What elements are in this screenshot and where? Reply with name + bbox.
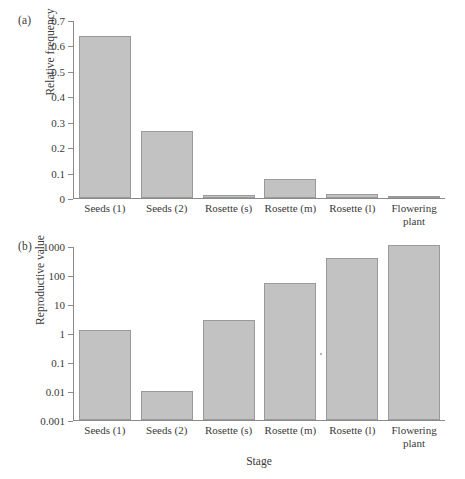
bar[interactable] bbox=[203, 195, 255, 198]
y-tick-label: 0.3 bbox=[51, 117, 65, 129]
x-tick-label: Seeds (1) bbox=[74, 424, 136, 437]
bar-slot: Rosette (s) bbox=[198, 247, 260, 420]
y-tick-label: 0.5 bbox=[51, 66, 65, 78]
x-tick-label: Seeds (1) bbox=[74, 202, 136, 215]
bar-slot: Flowering plant bbox=[383, 247, 445, 420]
bar-slot: Seeds (1) bbox=[74, 21, 136, 198]
y-tick-mark bbox=[68, 305, 73, 306]
y-tick-label: 0.2 bbox=[51, 142, 65, 154]
panel-b: (b) Reproductive value 0.0010.010.111010… bbox=[0, 232, 465, 479]
y-tick-label: 0.1 bbox=[51, 357, 65, 369]
bar-slot: Rosette (l) bbox=[321, 247, 383, 420]
bar-slot: Flowering plant bbox=[383, 21, 445, 198]
y-tick-mark bbox=[68, 174, 73, 175]
x-tick-label: Seeds (2) bbox=[136, 424, 198, 437]
bar-slot: Seeds (2) bbox=[136, 21, 198, 198]
y-tick-mark bbox=[68, 247, 73, 248]
y-tick-mark bbox=[68, 276, 73, 277]
x-tick-label: Rosette (s) bbox=[198, 424, 260, 437]
x-tick-label: Rosette (s) bbox=[198, 202, 260, 215]
y-tick-label: 0.4 bbox=[51, 91, 65, 103]
y-tick-mark bbox=[68, 46, 73, 47]
x-tick-label: Rosette (m) bbox=[260, 424, 322, 437]
y-tick-mark bbox=[68, 392, 73, 393]
bar[interactable] bbox=[141, 131, 193, 198]
panel-b-bars: Seeds (1)Seeds (2)Rosette (s)Rosette (m)… bbox=[74, 247, 445, 420]
panel-b-tag: (b) bbox=[18, 240, 32, 252]
x-tick-label: Flowering plant bbox=[383, 424, 445, 449]
bar-slot: Rosette (s) bbox=[198, 21, 260, 198]
bar-slot: Seeds (2) bbox=[136, 247, 198, 420]
y-tick-mark bbox=[68, 21, 73, 22]
y-tick-label: 0.001 bbox=[40, 415, 65, 427]
x-tick-label: Seeds (2) bbox=[136, 202, 198, 215]
panel-b-plot-area: 0.0010.010.11101001000 Seeds (1)Seeds (2… bbox=[73, 247, 445, 421]
bar-slot: Rosette (m) bbox=[260, 247, 322, 420]
y-tick-mark bbox=[68, 72, 73, 73]
y-tick-label: 0 bbox=[60, 193, 66, 205]
panel-a-x-axis bbox=[73, 198, 445, 199]
panel-a-bars: Seeds (1)Seeds (2)Rosette (s)Rosette (m)… bbox=[74, 21, 445, 198]
bar[interactable] bbox=[264, 179, 316, 198]
y-tick-mark bbox=[68, 334, 73, 335]
bar[interactable] bbox=[326, 258, 378, 420]
figure-container: (a) Relative frequency 00.10.20.30.40.50… bbox=[0, 0, 465, 479]
y-tick-label: 1 bbox=[60, 328, 66, 340]
y-tick-mark bbox=[68, 123, 73, 124]
x-tick-label: Rosette (m) bbox=[260, 202, 322, 215]
panel-a-tag: (a) bbox=[18, 14, 31, 26]
bar[interactable] bbox=[141, 391, 193, 420]
bar-slot: Rosette (l) bbox=[321, 21, 383, 198]
y-tick-label: 0.01 bbox=[46, 386, 65, 398]
bar[interactable] bbox=[388, 245, 440, 420]
bar-slot: Seeds (1) bbox=[74, 247, 136, 420]
bar-slot: Rosette (m) bbox=[260, 21, 322, 198]
y-tick-label: 1000 bbox=[43, 241, 65, 253]
x-tick-label: Rosette (l) bbox=[321, 424, 383, 437]
bar[interactable] bbox=[326, 194, 378, 198]
bar[interactable] bbox=[264, 283, 316, 420]
panel-b-y-axis-title: Reproductive value bbox=[34, 200, 46, 360]
y-tick-label: 10 bbox=[54, 299, 65, 311]
panel-b-x-axis bbox=[73, 420, 445, 421]
y-tick-mark bbox=[68, 363, 73, 364]
y-tick-label: 0.7 bbox=[51, 15, 65, 27]
panel-a: (a) Relative frequency 00.10.20.30.40.50… bbox=[0, 0, 465, 232]
y-tick-mark bbox=[68, 199, 73, 200]
x-tick-label: Rosette (l) bbox=[321, 202, 383, 215]
bar[interactable] bbox=[388, 196, 440, 198]
x-tick-label: Flowering plant bbox=[383, 202, 445, 227]
y-tick-mark bbox=[68, 148, 73, 149]
y-tick-label: 0.6 bbox=[51, 40, 65, 52]
bar[interactable] bbox=[203, 320, 255, 420]
panel-a-plot-area: 00.10.20.30.40.50.60.7 Seeds (1)Seeds (2… bbox=[73, 21, 445, 199]
x-axis-title: Stage bbox=[73, 455, 445, 467]
bar[interactable] bbox=[79, 330, 131, 420]
y-tick-mark bbox=[68, 97, 73, 98]
y-tick-mark bbox=[68, 421, 73, 422]
y-tick-label: 100 bbox=[49, 270, 66, 282]
y-tick-label: 0.1 bbox=[51, 168, 65, 180]
bar[interactable] bbox=[79, 36, 131, 198]
